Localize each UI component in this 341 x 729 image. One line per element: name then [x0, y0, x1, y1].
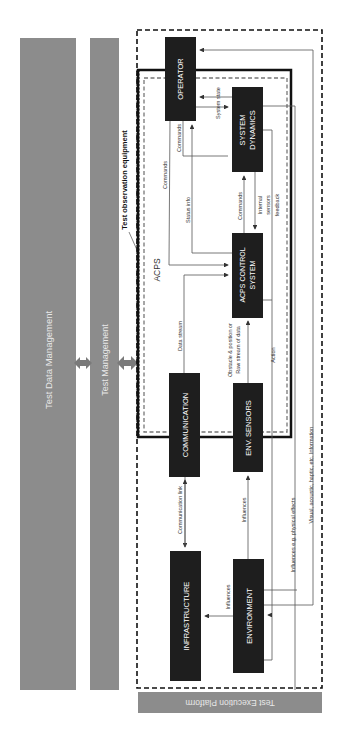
acps-frame — [144, 78, 287, 432]
test-observation-equipment-frame — [138, 70, 291, 437]
edge-label-influences-env-sensors: Influences — [241, 497, 247, 522]
edge-label-status-info: Status info — [185, 197, 191, 223]
edge-label-action: Action — [270, 347, 276, 362]
edge-label-influences-infra: Influences — [225, 584, 231, 609]
edge-label-feedback: feedback — [274, 194, 280, 217]
operator-block: OPERATOR — [165, 37, 196, 121]
edge-label-commands-op-sd: Commands — [176, 124, 182, 152]
svg-text:ENVIRONMENT: ENVIRONMENT — [245, 588, 254, 644]
acps-control-system-block: ACPS CONTROL SYSTEM — [232, 233, 263, 318]
environment-block: ENVIRONMENT — [233, 559, 264, 673]
svg-text:COMMUNICATION: COMMUNICATION — [181, 393, 190, 457]
edge-label-obstacle-2: Raw stream of data — [235, 325, 241, 374]
svg-text:ENV. SENSORS: ENV. SENSORS — [244, 400, 253, 456]
system-dynamics-block: SYSTEM DYNAMICS — [232, 87, 263, 172]
edge-label-obstacle-1: Obstacle & position or — [227, 323, 233, 377]
edge-label-commands-op-acps: Commands — [162, 161, 168, 189]
acps-label: ACPS — [152, 258, 162, 281]
edge-label-commands-acps-sd: Commands — [237, 192, 243, 220]
infrastructure-block: INFRASTRUCTURE — [170, 551, 201, 681]
svg-text:SYSTEM: SYSTEM — [249, 260, 256, 289]
edge-label-sensors: sensors — [265, 195, 271, 215]
test-management-label: Test Management — [100, 324, 110, 396]
test-observation-equipment-label: Test observation equipment — [120, 130, 129, 230]
edge-label-system-state: System state — [215, 87, 221, 119]
communication-block: COMMUNICATION — [169, 373, 200, 477]
acps-test-architecture-diagram: Test Data Management Test Management Tes… — [0, 0, 341, 729]
env-sensors-block: ENV. SENSORS — [233, 383, 263, 472]
edge-label-data-stream: Data stream — [177, 321, 183, 351]
edge-label-influences-physical: Influences e.g. physical effects — [290, 497, 296, 572]
svg-text:OPERATOR: OPERATOR — [176, 58, 185, 100]
edge-label-communication-link: Communication link — [177, 486, 183, 534]
svg-text:SYSTEM: SYSTEM — [238, 115, 247, 146]
edge-label-visual-info: Visual, acoustic, haptic, etc. Informati… — [308, 427, 314, 524]
svg-text:DYNAMICS: DYNAMICS — [248, 110, 257, 150]
svg-text:ACPS CONTROL: ACPS CONTROL — [239, 247, 246, 302]
svg-text:INFRASTRUCTURE: INFRASTRUCTURE — [182, 582, 191, 651]
test-data-management-label: Test Data Management — [43, 311, 54, 410]
edge-label-internal: Internal — [257, 196, 263, 214]
test-execution-platform-label: Test Execution Platform — [185, 698, 274, 708]
